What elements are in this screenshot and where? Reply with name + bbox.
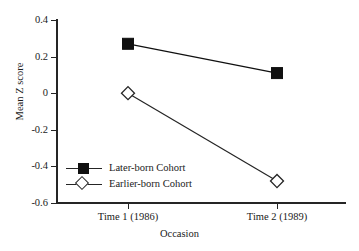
data-point-1-0	[121, 87, 134, 100]
y-axis-title: Mean Z score	[14, 37, 25, 147]
y-tick-label-4: -0.4	[8, 161, 48, 172]
x-tick-mark-0	[128, 204, 129, 209]
legend-label-earlier-born: Earlier-born Cohort	[102, 178, 192, 190]
chart-legend: Later-born Cohort Earlier-born Cohort	[66, 160, 236, 192]
y-tick-label-0: 0.4	[8, 15, 48, 26]
filled-square-marker-icon	[66, 161, 102, 175]
x-tick-mark-1	[277, 204, 278, 209]
y-tick-mark-5	[51, 203, 56, 204]
legend-item-earlier-born: Earlier-born Cohort	[66, 176, 236, 192]
x-axis-line	[56, 202, 346, 204]
data-point-0-0	[123, 38, 134, 49]
legend-label-later-born: Later-born Cohort	[102, 162, 185, 174]
y-axis-line	[56, 19, 58, 204]
x-axis-title: Occasion	[0, 228, 359, 239]
open-diamond-marker-icon	[66, 177, 102, 191]
series-line-0	[128, 44, 277, 73]
y-tick-label-5: -0.6	[8, 198, 48, 209]
y-tick-mark-4	[51, 166, 56, 167]
data-point-1-1	[270, 175, 283, 188]
y-tick-mark-3	[51, 130, 56, 131]
x-tick-label-0: Time 1 (1986)	[98, 211, 158, 222]
chart-figure: 0.4 0.2 0 -0.2 -0.4 -0.6 Time 1 (1986) T…	[0, 0, 359, 251]
x-tick-label-1: Time 2 (1989)	[247, 211, 307, 222]
legend-item-later-born: Later-born Cohort	[66, 160, 236, 176]
y-tick-mark-1	[51, 57, 56, 58]
data-point-0-1	[272, 68, 283, 79]
y-tick-mark-2	[51, 93, 56, 94]
y-tick-mark-0	[51, 20, 56, 21]
